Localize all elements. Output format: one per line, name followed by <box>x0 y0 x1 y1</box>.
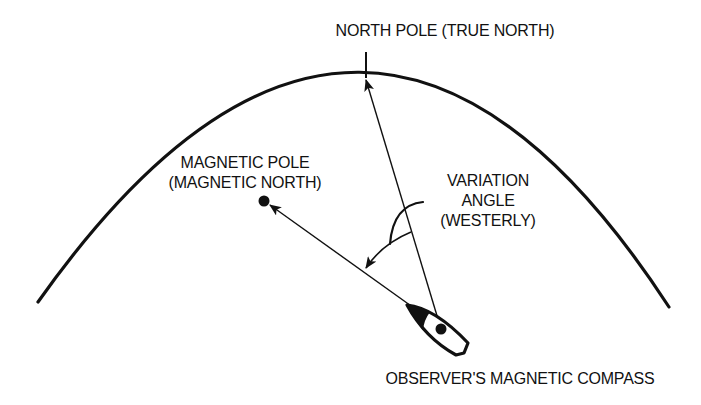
magnetic-pole-label-line2: (MAGNETIC NORTH) <box>150 173 340 193</box>
magnetic-pole-dot <box>259 196 270 207</box>
variation-angle-arrow <box>366 232 411 268</box>
earth-horizon-arc <box>38 72 669 307</box>
magnetic-pole-label-line1: MAGNETIC POLE <box>150 153 340 173</box>
magnetic-north-arrow <box>270 205 414 308</box>
variation-diagram <box>0 0 701 405</box>
true-north-label: NORTH POLE (TRUE NORTH) <box>300 21 590 41</box>
boat-icon <box>407 305 468 355</box>
variation-angle-label: VARIATION ANGLE (WESTERLY) <box>428 171 548 231</box>
magnetic-pole-label: MAGNETIC POLE (MAGNETIC NORTH) <box>150 153 340 193</box>
variation-label-line2: ANGLE <box>428 191 548 211</box>
observer-compass-label: OBSERVER'S MAGNETIC COMPASS <box>350 369 690 389</box>
variation-label-line1: VARIATION <box>428 171 548 191</box>
compass-dot <box>436 324 447 335</box>
variation-label-line3: (WESTERLY) <box>428 211 548 231</box>
variation-angle-arc <box>390 202 423 244</box>
